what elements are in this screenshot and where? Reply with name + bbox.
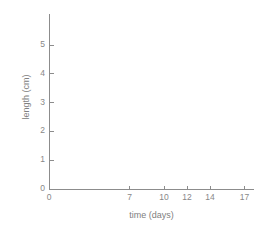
x-axis-tick-label: 10 (154, 193, 174, 202)
x-axis-tick-label: 7 (120, 193, 140, 202)
chart-figure: 012345 0710121417 time (days) length (cm… (0, 0, 276, 233)
x-axis-tick (129, 186, 130, 190)
x-axis-tick (244, 186, 245, 190)
x-axis-tick (187, 186, 188, 190)
y-axis-tick-label: 1 (33, 155, 45, 164)
y-axis-tick-label: 4 (33, 69, 45, 78)
x-axis-tick-label: 12 (177, 193, 197, 202)
x-axis-tick-label: 14 (200, 193, 220, 202)
y-axis-tick (50, 73, 54, 74)
x-axis-tick-label: 0 (39, 193, 59, 202)
y-axis-tick (50, 160, 54, 161)
y-axis-title: length (cm) (21, 9, 31, 185)
y-axis-tick (50, 45, 54, 46)
x-axis-line (49, 189, 254, 190)
plot-area (49, 14, 254, 189)
y-axis-tick-label: 5 (33, 40, 45, 49)
y-axis-tick-label: 2 (33, 126, 45, 135)
y-axis-tick (50, 131, 54, 132)
x-axis-title: time (days) (49, 210, 254, 220)
x-axis-tick (210, 186, 211, 190)
x-axis-tick-label: 17 (235, 193, 255, 202)
x-axis-tick (164, 186, 165, 190)
y-axis-tick (50, 102, 54, 103)
y-axis-tick-label: 3 (33, 98, 45, 107)
y-axis-tick-label: 0 (33, 184, 45, 193)
